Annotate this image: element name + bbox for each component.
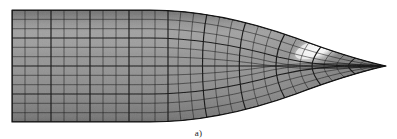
figure-panel: a) xyxy=(0,0,397,139)
mesh-svg-canvas xyxy=(0,0,397,139)
figure-caption: a) xyxy=(0,128,397,138)
mesh-rendering xyxy=(0,0,397,139)
